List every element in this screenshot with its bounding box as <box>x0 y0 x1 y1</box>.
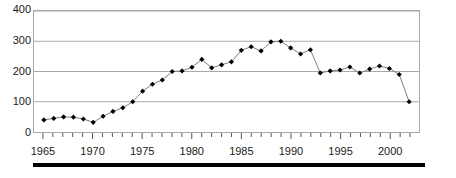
x-tick-label: 1985 <box>218 146 264 157</box>
x-tick-label: 1965 <box>20 146 66 157</box>
x-tick-label: 1990 <box>268 146 314 157</box>
x-tick-label: 1975 <box>119 146 165 157</box>
line-chart: 0100200300400 19651970197519801985199019… <box>0 0 456 178</box>
x-tick-label: 1980 <box>169 146 215 157</box>
x-tick-label: 1995 <box>318 146 364 157</box>
x-tick-label: 2000 <box>367 146 413 157</box>
x-axis: 19651970197519801985199019952000 <box>0 0 456 178</box>
x-tick-label: 1970 <box>70 146 116 157</box>
bottom-rule <box>33 163 425 167</box>
